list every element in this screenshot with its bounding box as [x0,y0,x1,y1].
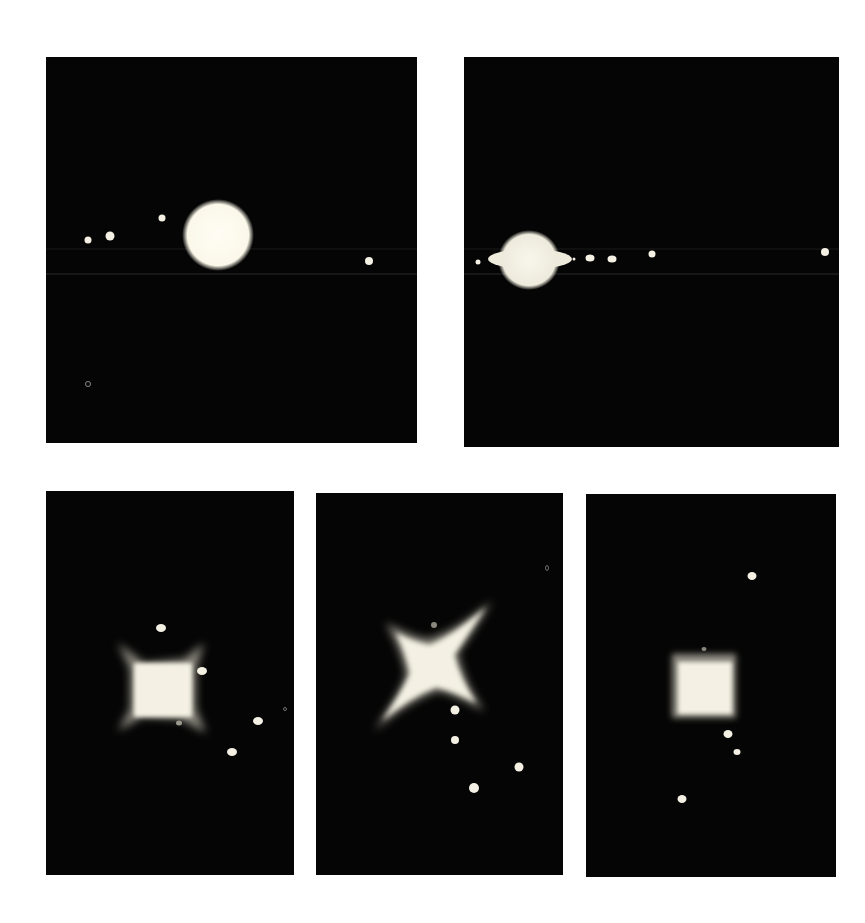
panel-square-diffraction [46,491,294,875]
x-diffraction-image [316,493,563,875]
star-square [118,643,206,733]
panel-x-diffraction [316,493,563,875]
square-diffraction-image [46,491,294,875]
ringed-planet [488,230,572,290]
panel-ringed-planet [464,57,839,447]
planet-disk [182,199,254,271]
ringed-planet-image [464,57,839,447]
disk-planet-image [46,57,417,443]
star-square-small [672,654,736,718]
star-cross [374,601,492,731]
small-square-diffraction-image [586,494,836,877]
panel-small-square-diffraction [586,494,836,877]
panel-disk-planet [46,57,417,443]
